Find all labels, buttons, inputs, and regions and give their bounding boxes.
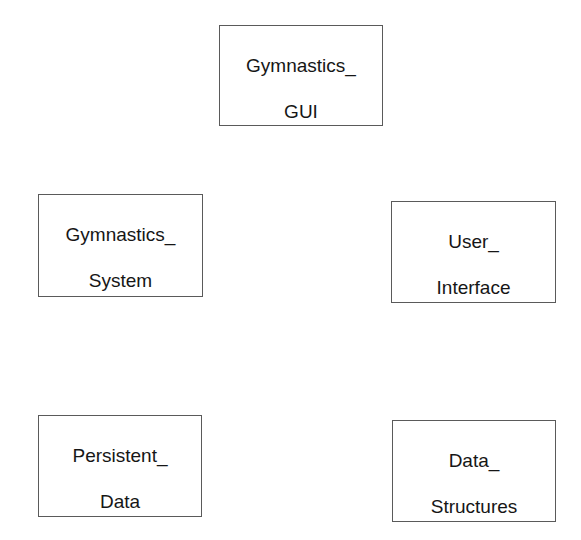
package-label: Data_ Structures	[393, 421, 555, 518]
package-label: Gymnastics_ System	[39, 195, 202, 292]
package-label-line2: System	[89, 270, 152, 291]
package-label-line2: Structures	[431, 496, 518, 517]
package-label-line1: Gymnastics_	[66, 224, 176, 245]
package-label: Persistent_ Data	[39, 416, 201, 513]
package-user-interface: User_ Interface	[391, 201, 556, 303]
package-label-line1: User_	[448, 231, 499, 252]
package-persistent-data: Persistent_ Data	[38, 415, 202, 517]
package-label: Gymnastics_ GUI	[220, 26, 382, 123]
package-gymnastics-gui: Gymnastics_ GUI	[219, 25, 383, 126]
package-label-line2: Data	[100, 491, 140, 512]
package-label-line2: GUI	[284, 101, 318, 122]
package-label-line2: Interface	[437, 277, 511, 298]
package-label-line1: Data_	[449, 450, 500, 471]
package-data-structures: Data_ Structures	[392, 420, 556, 522]
package-label-line1: Persistent_	[72, 445, 167, 466]
package-gymnastics-system: Gymnastics_ System	[38, 194, 203, 297]
package-label-line1: Gymnastics_	[246, 55, 356, 76]
package-diagram: Gymnastics_ GUI Gymnastics_ System User_…	[0, 0, 581, 540]
package-label: User_ Interface	[392, 202, 555, 299]
